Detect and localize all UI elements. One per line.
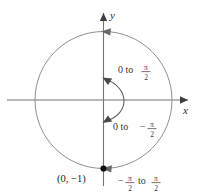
annotation-lower-arc-numerator: π	[150, 120, 154, 129]
x-axis-label: x	[182, 104, 188, 116]
point-marker-0-minus1	[100, 165, 106, 171]
annotation-upper-arc-denominator: 2	[144, 73, 148, 82]
y-axis-arrowhead	[100, 13, 107, 21]
annotation-lower-arc-denominator: 2	[150, 130, 154, 139]
circle-top-arrowhead	[101, 28, 111, 35]
unit-circle-diagram: y x 0 to π 2 0 to − π 2 (0, −1) − π 2 to…	[0, 0, 210, 195]
annotation-upper-arc-numerator: π	[144, 63, 148, 72]
annotation-full-arc-denominator-1: 2	[128, 184, 132, 193]
y-axis-label: y	[109, 9, 115, 21]
point-label-0-minus1: (0, −1)	[57, 173, 86, 185]
annotation-full-arc-numerator-1: π	[128, 174, 132, 183]
x-axis	[7, 96, 188, 104]
x-axis-arrowhead	[180, 96, 188, 104]
annotation-full-arc-numerator-2: π	[154, 174, 158, 183]
annotation-full-arc-middle: to	[138, 175, 146, 186]
diagram-canvas: y x 0 to π 2 0 to − π 2 (0, −1) − π 2 to…	[0, 0, 210, 195]
annotation-lower-arc-prefix: 0 to	[113, 121, 128, 132]
annotation-upper-arc-prefix: 0 to	[118, 64, 133, 75]
annotation-full-arc: − π 2 to π 2	[118, 174, 161, 193]
annotation-lower-arc: 0 to − π 2	[113, 120, 157, 139]
annotation-full-arc-sign: −	[118, 175, 124, 186]
annotation-lower-arc-sign: −	[140, 121, 146, 132]
annotation-full-arc-denominator-2: 2	[154, 184, 158, 193]
annotation-upper-arc: 0 to π 2	[118, 63, 151, 82]
